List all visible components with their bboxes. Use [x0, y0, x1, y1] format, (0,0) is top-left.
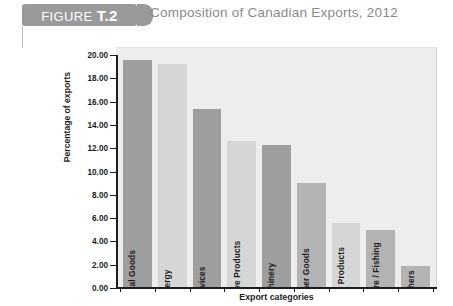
bar-category-label: Consumer Goods — [301, 248, 311, 288]
y-axis-tick — [110, 148, 116, 149]
bar-series: Industrial GoodsEnergyServicesAutomotive… — [116, 47, 437, 288]
y-axis-tick-label: 10.00 — [88, 167, 109, 176]
y-axis-tick-label: 6.00 — [92, 214, 108, 223]
y-axis-tick — [110, 218, 116, 219]
y-axis-tick-label: 4.00 — [92, 237, 108, 246]
x-axis-tick — [363, 287, 364, 292]
x-axis-tick — [155, 287, 156, 292]
bar: Forestry Products — [332, 223, 361, 288]
y-axis-tick — [110, 172, 116, 173]
bar: Agriculture / Fishing — [366, 230, 395, 288]
y-axis-tick-label: 18.00 — [88, 74, 109, 83]
y-axis-tick-label: 16.00 — [88, 97, 109, 106]
bar-category-label: Automotive Products — [232, 241, 242, 288]
x-axis-title: Export categories — [116, 292, 437, 302]
bar: Services — [193, 109, 222, 288]
y-axis-tick-label: 20.00 — [88, 51, 109, 60]
y-axis-tick — [110, 55, 116, 56]
y-axis-tick — [110, 78, 116, 79]
bar: Energy — [158, 64, 187, 288]
bar-category-label: Forestry Products — [336, 247, 346, 288]
bar: Machinery — [262, 145, 291, 288]
x-axis-tick — [294, 287, 295, 292]
x-axis-tick — [398, 287, 399, 292]
y-axis-tick — [110, 125, 116, 126]
bar-category-label: Energy — [162, 270, 172, 289]
y-axis-tick — [110, 195, 116, 196]
bar: Others — [401, 266, 430, 288]
x-axis-tick — [190, 287, 191, 292]
bar: Consumer Goods — [297, 183, 326, 288]
bar-category-label: Agriculture / Fishing — [371, 242, 381, 288]
y-axis-tick-label: 14.00 — [88, 120, 109, 129]
y-axis-tick-label: 0.00 — [92, 284, 108, 293]
figure-frame-spine — [22, 26, 23, 48]
y-axis-tick — [110, 241, 116, 242]
y-axis-tick-label: 2.00 — [92, 260, 108, 269]
bar-category-label: Machinery — [266, 263, 276, 288]
bar-category-label: Others — [406, 270, 416, 288]
y-axis-tick — [110, 102, 116, 103]
x-axis-tick — [224, 287, 225, 292]
x-axis-tick — [329, 287, 330, 292]
bar-category-label: Services — [197, 266, 207, 288]
y-axis-tick — [110, 288, 116, 289]
x-axis-tick — [120, 287, 121, 292]
figure-title: Composition of Canadian Exports, 2012 — [150, 5, 398, 20]
bar: Automotive Products — [227, 141, 256, 288]
bar: Industrial Goods — [123, 60, 152, 288]
x-axis-tick — [259, 287, 260, 292]
y-axis-tick-label: 8.00 — [92, 190, 108, 199]
y-axis-tick-label: 12.00 — [88, 144, 109, 153]
x-axis-line — [116, 287, 437, 289]
x-axis-tick — [433, 287, 434, 292]
y-axis-title: Percentage of exports — [62, 42, 72, 192]
y-axis-tick — [110, 265, 116, 266]
figure-container: FIGURE T.2 Composition of Canadian Expor… — [0, 0, 453, 306]
bar-category-label: Industrial Goods — [127, 250, 137, 288]
